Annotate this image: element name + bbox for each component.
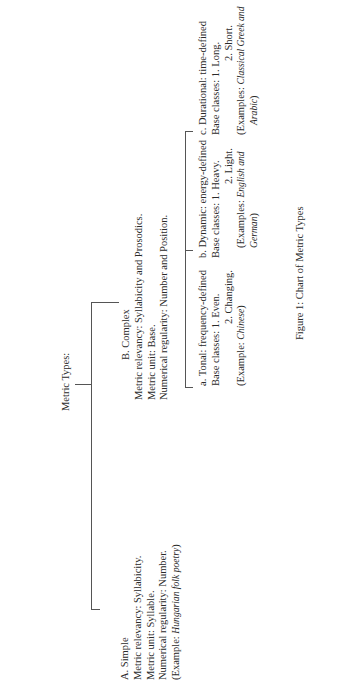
- dynamic-example-cont: German): [248, 140, 261, 258]
- simple-regularity: Numerical regularity: Number.: [157, 544, 170, 680]
- root-bracket-line: [91, 303, 92, 610]
- root-label: Metric Types:: [60, 353, 73, 411]
- dynamic-node: b. Dynamic: energy-defined Base classes:…: [197, 140, 261, 258]
- tonal-heading: a. Tonal: frequency-defined: [197, 270, 210, 386]
- dynamic-classes-2: 2. Light.: [223, 140, 236, 258]
- durational-classes-1: Base classes: 1. Long.: [210, 7, 223, 135]
- tonal-node: a. Tonal: frequency-defined Base classes…: [197, 270, 248, 386]
- tonal-classes-1: Base classes: 1. Even.: [210, 270, 223, 386]
- complex-tick-line: [91, 302, 119, 303]
- simple-relevancy: Metric relevancy: Syllabicity.: [132, 544, 145, 680]
- tonal-tick-line: [185, 387, 193, 388]
- tonal-classes-2: 2. Changing.: [223, 270, 236, 386]
- figure-caption: Figure 1: Chart of Metric Types: [294, 206, 307, 340]
- dynamic-tick-line: [185, 250, 193, 251]
- simple-unit: Metric unit: Syllable.: [145, 544, 158, 680]
- durational-classes-2: 2. Short.: [223, 7, 236, 135]
- simple-node: A. Simple Metric relevancy: Syllabicity.…: [119, 544, 183, 680]
- complex-regularity: Numerical regularity: Number and Positio…: [158, 214, 171, 400]
- root-stem-line: [75, 384, 92, 385]
- dynamic-heading: b. Dynamic: energy-defined: [197, 140, 210, 258]
- dynamic-classes-1: Base classes: 1. Heavy.: [210, 140, 223, 258]
- durational-example-cont: Arabic): [248, 7, 261, 135]
- complex-bracket-line: [185, 131, 186, 388]
- complex-relevancy: Metric relevancy: Syllabicity and Prosod…: [133, 214, 146, 400]
- simple-tick-line: [91, 609, 100, 610]
- durational-example: (Examples: Classical Greek and: [235, 7, 248, 135]
- dynamic-example: (Examples: English and: [235, 140, 248, 258]
- complex-node: B. Complex Metric relevancy: Syllabicity…: [120, 214, 171, 400]
- durational-tick-line: [185, 131, 193, 132]
- simple-example: (Example: Hungarian folk poetry): [170, 544, 183, 680]
- complex-heading: B. Complex: [120, 214, 133, 400]
- tonal-example: (Example: Chinese): [235, 270, 248, 386]
- simple-heading: A. Simple: [119, 544, 132, 680]
- complex-unit: Metric unit: Base.: [146, 214, 159, 400]
- durational-heading: c. Durational: time-defined: [197, 7, 210, 135]
- metric-types-diagram: Metric Types: A. Simple Metric relevancy…: [0, 0, 352, 683]
- durational-node: c. Durational: time-defined Base classes…: [197, 7, 261, 135]
